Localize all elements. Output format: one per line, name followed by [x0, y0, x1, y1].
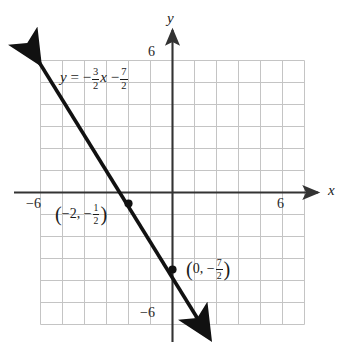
fraction-numerator: 7	[216, 258, 223, 268]
point-label-y-intercept: (0, −72)	[186, 258, 230, 281]
point-x-value: −2,	[62, 206, 80, 221]
plotted-line	[39, 62, 209, 337]
equation-minus-2: −	[111, 69, 119, 85]
coordinate-plane-svg	[0, 0, 346, 355]
paren-close: )	[224, 258, 231, 280]
fraction-seven-halves: 72	[120, 67, 127, 91]
fraction-denominator: 2	[120, 81, 127, 92]
paren-open: (	[55, 203, 62, 225]
x-axis-tick-label-positive-six: 6	[277, 196, 284, 212]
point-y-sign: −	[207, 261, 215, 276]
equation-variable: x	[100, 69, 107, 85]
fraction-denominator: 2	[92, 81, 99, 92]
y-axis-tick-label-positive-six: 6	[148, 44, 155, 60]
x-axis-tick-label-negative-six: −6	[26, 196, 41, 212]
fraction-numerator: 7	[120, 67, 127, 78]
equation-lhs: y	[60, 69, 67, 85]
fraction-seven-halves: 72	[216, 258, 223, 281]
fraction-denominator: 2	[93, 216, 100, 226]
point-x-value: 0,	[193, 261, 204, 276]
graph-canvas: y = −32x −72 (−2, −12) (0, −72) 6 −6 −6 …	[0, 0, 346, 355]
equation-label: y = −32x −72	[60, 67, 129, 91]
x-axis-label: x	[328, 182, 335, 199]
equation-minus-1: −	[83, 69, 91, 85]
fraction-numerator: 1	[93, 203, 100, 213]
paren-close: )	[100, 203, 107, 225]
point-marker-y-intercept	[168, 265, 176, 273]
fraction-three-halves: 32	[92, 67, 99, 91]
point-marker-x-intercept	[124, 199, 132, 207]
y-axis-label: y	[167, 10, 174, 27]
fraction-denominator: 2	[216, 271, 223, 281]
point-label-x-intercept: (−2, −12)	[55, 203, 107, 226]
point-y-sign: −	[84, 206, 92, 221]
y-axis-tick-label-negative-six: −6	[140, 305, 155, 321]
fraction-one-half: 12	[93, 203, 100, 226]
fraction-numerator: 3	[92, 67, 99, 78]
equation-equals: =	[70, 69, 78, 85]
paren-open: (	[186, 258, 193, 280]
